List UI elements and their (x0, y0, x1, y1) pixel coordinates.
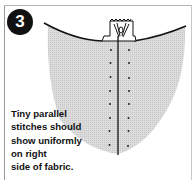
caption-line: show uniformly (11, 134, 82, 147)
caption-line: stitches should (11, 120, 82, 133)
caption-text: Tiny parallel stitches should show unifo… (11, 107, 82, 173)
caption-line: on right (11, 147, 82, 160)
caption-line: side of fabric. (11, 160, 82, 173)
seam-allowance-fold (102, 19, 136, 41)
caption-line: Tiny parallel (11, 107, 82, 120)
step-number-badge: 3 (7, 9, 33, 35)
